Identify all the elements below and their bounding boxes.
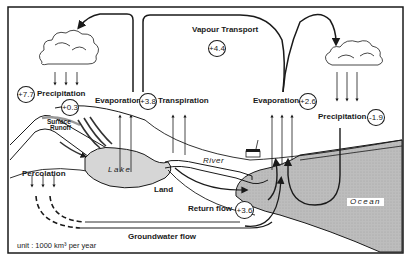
- water-cycle-diagram: Precipitation +7.7 +0.3 Surface Runoff E…: [0, 0, 415, 260]
- lake-label: Lake: [108, 166, 131, 174]
- vapour-transport-value: +4.4: [208, 40, 226, 57]
- return-flow-value: +3.6: [235, 201, 254, 219]
- groundwater-flow-line: [80, 222, 272, 228]
- unit-label: unit : 1000 km³ per year: [17, 242, 96, 250]
- ocean-label: Ocean: [347, 198, 384, 206]
- surface-runoff-value: +0.3: [61, 99, 79, 116]
- vapour-transport-label: Vapour Transport: [192, 26, 258, 34]
- evaporation-land-label: Evaporation: [95, 97, 141, 105]
- groundwater-flow-label: Groundwater flow: [128, 233, 196, 241]
- evapotranspiration-land-value: +3.8: [139, 93, 157, 110]
- precipitation-land-label: Precipitation: [37, 90, 85, 98]
- surface-runoff-label-2: Runoff: [50, 125, 71, 131]
- precipitation-ocean-label: Precipitation: [318, 113, 366, 121]
- percolation-label: Percolation: [22, 170, 66, 178]
- percolation-lines: [36, 196, 85, 228]
- evaporation-ocean-value: +2.6: [299, 93, 317, 110]
- land-label: Land: [154, 186, 173, 194]
- cloud-icon-ocean: [325, 41, 382, 65]
- transpiration-label: Transpiration: [158, 97, 209, 105]
- cloud-icon-land: [39, 30, 98, 64]
- ocean-area: [236, 140, 402, 252]
- precipitation-ocean-value: -1.9: [367, 109, 385, 126]
- evaporation-ocean-label: Evaporation: [253, 97, 299, 105]
- precipitation-arrows-land: [55, 72, 77, 84]
- river-label: River: [203, 157, 224, 165]
- house-icon: [246, 140, 260, 157]
- return-flow-label: Return flow: [188, 205, 232, 213]
- precipitation-land-value: +7.7: [17, 86, 35, 103]
- precipitation-arrows-ocean: [337, 72, 357, 100]
